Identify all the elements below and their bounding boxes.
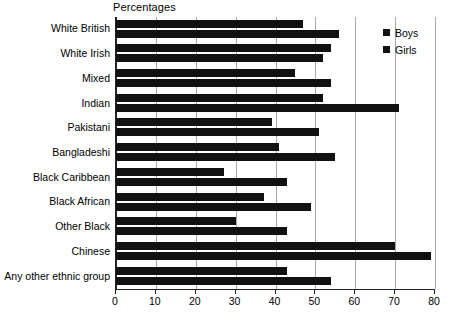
bar-boys <box>116 143 279 151</box>
x-tick-60 <box>354 289 355 294</box>
bar-row <box>116 116 434 141</box>
gridline-80 <box>435 17 436 289</box>
bar-row <box>116 215 434 240</box>
x-tick-label-0: 0 <box>100 295 130 307</box>
bar-boys <box>116 69 295 77</box>
x-tick-70 <box>394 289 395 294</box>
x-tick-10 <box>155 289 156 294</box>
category-label: Mixed <box>0 73 110 84</box>
bar-boys <box>116 118 272 126</box>
x-tick-label-50: 50 <box>299 295 329 307</box>
x-tick-label-10: 10 <box>140 295 170 307</box>
x-tick-label-80: 80 <box>419 295 449 307</box>
category-label: Other Black <box>0 221 110 232</box>
bar-girls <box>116 203 311 211</box>
bar-girls <box>116 30 339 38</box>
bar-boys <box>116 44 331 52</box>
x-tick-40 <box>275 289 276 294</box>
legend-swatch-boys-icon <box>383 29 390 36</box>
bar-girls <box>116 54 323 62</box>
x-axis-title: Percentages <box>113 1 176 13</box>
category-axis-labels: White BritishWhite IrishMixedIndianPakis… <box>0 17 110 289</box>
category-label: Any other ethnic group <box>0 271 110 282</box>
category-label: Chinese <box>0 246 110 257</box>
legend-item-boys: Boys <box>383 25 418 40</box>
legend-item-girls: Girls <box>383 42 418 57</box>
bar-boys <box>116 20 303 28</box>
bar-boys <box>116 168 224 176</box>
category-label: Black Caribbean <box>0 172 110 183</box>
category-label: Pakistani <box>0 122 110 133</box>
bar-girls <box>116 79 331 87</box>
bar-row <box>116 190 434 215</box>
bar-boys <box>116 94 323 102</box>
bar-boys <box>116 242 395 250</box>
x-tick-label-30: 30 <box>220 295 250 307</box>
x-tick-20 <box>195 289 196 294</box>
legend-label-girls: Girls <box>395 44 417 56</box>
bar-boys <box>116 217 236 225</box>
bar-row <box>116 141 434 166</box>
x-tick-80 <box>434 289 435 294</box>
category-label: White British <box>0 23 110 34</box>
bar-row <box>116 91 434 116</box>
bar-row <box>116 66 434 91</box>
legend-label-boys: Boys <box>395 27 418 39</box>
bar-girls <box>116 277 331 285</box>
category-label: Bangladeshi <box>0 147 110 158</box>
chart-legend: Boys Girls <box>383 25 418 59</box>
bar-girls <box>116 153 335 161</box>
bar-boys <box>116 193 264 201</box>
bar-girls <box>116 104 399 112</box>
x-tick-label-60: 60 <box>339 295 369 307</box>
category-label: White Irish <box>0 48 110 59</box>
bar-girls <box>116 178 287 186</box>
x-tick-label-70: 70 <box>379 295 409 307</box>
legend-swatch-girls-icon <box>383 46 390 53</box>
bar-girls <box>116 128 319 136</box>
bar-boys <box>116 267 287 275</box>
bar-row <box>116 240 434 265</box>
category-label: Indian <box>0 98 110 109</box>
x-tick-30 <box>235 289 236 294</box>
category-label: Black African <box>0 196 110 207</box>
x-tick-0 <box>115 289 116 294</box>
x-tick-label-20: 20 <box>180 295 210 307</box>
bar-girls <box>116 227 287 235</box>
x-tick-50 <box>314 289 315 294</box>
bar-girls <box>116 252 431 260</box>
x-tick-label-40: 40 <box>260 295 290 307</box>
bar-row <box>116 264 434 289</box>
bar-chart: Percentages White BritishWhite IrishMixe… <box>0 0 451 315</box>
bar-row <box>116 165 434 190</box>
